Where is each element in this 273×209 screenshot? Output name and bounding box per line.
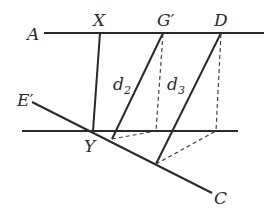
label-d3-sub: 3 <box>178 84 185 97</box>
dashed-vertical-d <box>216 34 221 131</box>
label-c: C <box>214 188 227 208</box>
dashed-vertical-g <box>156 34 163 131</box>
diagram-svg: A X G′ D E′ Y C d2 d3 <box>0 0 273 209</box>
label-g-prime: G′ <box>157 10 175 30</box>
label-d2: d2 <box>113 74 131 97</box>
label-d2-sub: 2 <box>123 84 131 97</box>
label-d3-base: d <box>167 74 178 94</box>
label-d3: d3 <box>167 74 185 97</box>
label-y: Y <box>84 136 97 156</box>
label-a: A <box>25 24 39 44</box>
label-d: D <box>213 10 228 30</box>
dashed-connector-lower-1 <box>112 131 156 139</box>
segment-d-d3 <box>156 33 221 164</box>
label-e-prime: E′ <box>16 90 33 110</box>
transversal-line-e-c <box>32 102 212 193</box>
label-d2-base: d <box>113 74 124 94</box>
label-x: X <box>91 10 106 30</box>
segment-x-y <box>93 33 100 131</box>
geometry-diagram: A X G′ D E′ Y C d2 d3 <box>0 0 273 209</box>
